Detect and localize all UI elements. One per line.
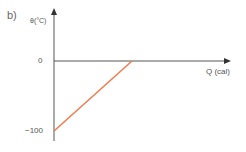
y-axis-arrow-icon (51, 8, 57, 15)
x-axis-arrow-icon (224, 58, 231, 64)
data-line (54, 61, 132, 131)
chart-plot (0, 0, 246, 152)
